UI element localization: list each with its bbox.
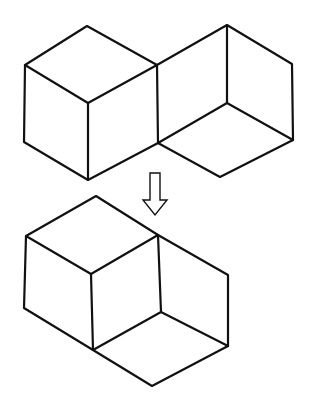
top-figure-edge	[158, 103, 293, 143]
top-figure-edge	[25, 26, 157, 103]
top-figure-edge	[24, 65, 158, 180]
diagram-svg	[0, 0, 312, 407]
top-figure	[24, 25, 293, 180]
down-arrow-icon	[143, 173, 167, 215]
bottom-figure-edge	[26, 196, 158, 274]
top-figure-edge	[157, 25, 293, 177]
arrow-outline	[143, 173, 167, 215]
bottom-figure-edge	[91, 274, 93, 350]
bottom-figure-edge	[161, 312, 228, 346]
diagram-canvas	[0, 0, 312, 407]
bottom-figure	[24, 196, 228, 386]
